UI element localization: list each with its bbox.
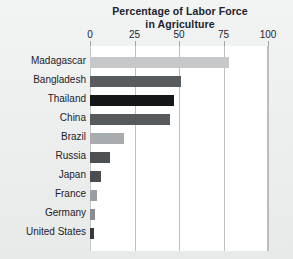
x-tick-mark xyxy=(224,41,225,46)
bar-row: Russia xyxy=(90,148,268,167)
x-tick-label: 50 xyxy=(173,29,184,40)
x-tick-mark xyxy=(179,41,180,46)
category-label: Thailand xyxy=(48,93,86,104)
bar-row: United States xyxy=(90,224,268,243)
gridline xyxy=(268,46,269,251)
category-label: Germany xyxy=(45,207,86,218)
x-tick-label: 100 xyxy=(260,29,277,40)
category-label: France xyxy=(55,188,86,199)
plot-wrapper: 0255075100 MadagascarBangladeshThailandC… xyxy=(90,46,268,251)
x-tick-mark xyxy=(90,41,91,46)
bar xyxy=(90,152,110,163)
bar xyxy=(90,76,181,87)
x-tick-label: 0 xyxy=(87,29,93,40)
bar-row: Bangladesh xyxy=(90,72,268,91)
bar xyxy=(90,114,170,125)
category-label: Japan xyxy=(59,169,86,180)
category-label: China xyxy=(60,112,86,123)
chart-title-line-1: Percentage of Labor Force xyxy=(112,5,248,17)
bar-row: Thailand xyxy=(90,91,268,110)
bar xyxy=(90,228,94,239)
bar xyxy=(90,133,124,144)
x-tick-mark xyxy=(135,41,136,46)
bar-row: France xyxy=(90,186,268,205)
bar-row: China xyxy=(90,110,268,129)
x-tick-label: 75 xyxy=(218,29,229,40)
bar xyxy=(90,95,174,106)
category-label: Madagascar xyxy=(31,55,86,66)
bar-row: Madagascar xyxy=(90,53,268,72)
x-tick-label: 25 xyxy=(129,29,140,40)
bar xyxy=(90,57,229,68)
bar xyxy=(90,190,97,201)
bar-row: Brazil xyxy=(90,129,268,148)
category-label: United States xyxy=(26,226,86,237)
bar-row: Germany xyxy=(90,205,268,224)
bar xyxy=(90,209,95,220)
chart-title: Percentage of Labor Force in Agriculture xyxy=(80,5,280,30)
x-tick-mark xyxy=(268,41,269,46)
bar xyxy=(90,171,101,182)
chart-figure: Percentage of Labor Force in Agriculture… xyxy=(0,0,293,259)
category-label: Russia xyxy=(55,150,86,161)
bar-row: Japan xyxy=(90,167,268,186)
category-label: Brazil xyxy=(61,131,86,142)
category-label: Bangladesh xyxy=(33,74,86,85)
